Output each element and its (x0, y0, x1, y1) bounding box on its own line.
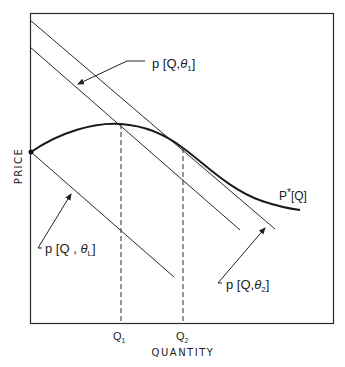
label-theta2: p [Q,θ2] (226, 277, 269, 294)
label-theta1: p [Q,θ1] (152, 56, 195, 73)
tick-q1: Q1 (113, 330, 126, 344)
label-p-star: P*[Q] (279, 187, 307, 203)
curve-start-dot (29, 150, 34, 155)
curve-p-star (31, 124, 300, 210)
price-quantity-diagram: p [Q,θ1] p [Q , θL] p [Q,θ2] P*[Q] Q1 Q2… (0, 0, 345, 367)
tick-q2: Q2 (176, 330, 189, 344)
line-thetaL (31, 152, 174, 277)
line-theta1 (30, 47, 240, 230)
line-theta2 (30, 20, 275, 229)
theta1-leader-arrow (78, 61, 145, 84)
x-axis-label: QUANTITY (152, 347, 215, 358)
thetaL-leader-arrow (38, 194, 71, 248)
theta2-leader-arrow (218, 228, 265, 283)
label-thetaL: p [Q , θL] (45, 241, 96, 258)
y-axis-label: PRICE (13, 148, 24, 185)
